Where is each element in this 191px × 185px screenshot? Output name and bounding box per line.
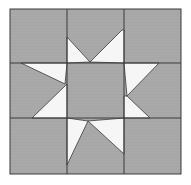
quilt-block-svg (0, 0, 191, 185)
quilt-block-diagram (0, 0, 191, 185)
block-background (10, 9, 181, 174)
